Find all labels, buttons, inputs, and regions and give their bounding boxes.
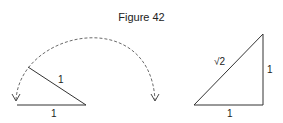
- rotation-arc: [16, 38, 155, 100]
- right-triangle: [194, 34, 263, 105]
- right-base-label: 1: [227, 108, 233, 119]
- left-base-label: 1: [51, 108, 57, 119]
- vertical-leg-label: 1: [267, 64, 273, 75]
- left-rotated-segment: [28, 67, 86, 105]
- geometry-diagram: [0, 0, 283, 123]
- hypotenuse-label: √2: [214, 56, 225, 67]
- left-rotated-label: 1: [58, 74, 64, 85]
- figure-canvas: Figure 42 1 1 √2 1 1: [0, 0, 283, 123]
